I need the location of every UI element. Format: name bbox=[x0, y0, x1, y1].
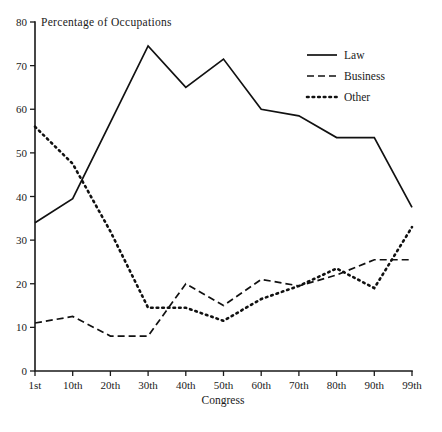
chart-canvas: 01020304050607080 1st10th20th30th40th50t… bbox=[0, 0, 442, 432]
x-tick-label: 90th bbox=[365, 379, 385, 391]
legend-label-law: Law bbox=[344, 49, 365, 61]
x-tick-label: 80th bbox=[327, 379, 347, 391]
y-tick-label: 60 bbox=[16, 103, 28, 115]
y-axis-tick-labels: 01020304050607080 bbox=[16, 16, 28, 377]
series-line-other bbox=[35, 127, 412, 321]
series-line-business bbox=[35, 260, 412, 336]
y-tick-label: 40 bbox=[16, 191, 28, 203]
x-tick-label: 70th bbox=[289, 379, 309, 391]
y-tick-label: 0 bbox=[22, 365, 28, 377]
legend-label-business: Business bbox=[344, 70, 385, 82]
y-tick-label: 10 bbox=[16, 321, 28, 333]
y-tick-label: 80 bbox=[16, 16, 28, 28]
x-axis-tick-labels: 1st10th20th30th40th50th60th70th80th90th9… bbox=[29, 379, 423, 391]
x-tick-label: 20th bbox=[101, 379, 121, 391]
x-tick-label: 30th bbox=[138, 379, 158, 391]
x-axis-title: Congress bbox=[202, 394, 245, 407]
x-tick-label: 60th bbox=[251, 379, 271, 391]
y-tick-label: 30 bbox=[16, 234, 28, 246]
x-tick-label: 50th bbox=[214, 379, 234, 391]
chart-legend: LawBusinessOther bbox=[307, 49, 385, 103]
y-tick-label: 70 bbox=[16, 60, 28, 72]
x-tick-label: 99th bbox=[402, 379, 422, 391]
y-tick-label: 50 bbox=[16, 147, 28, 159]
y-tick-label: 20 bbox=[16, 278, 28, 290]
legend-label-other: Other bbox=[344, 91, 370, 103]
occupations-line-chart: 01020304050607080 1st10th20th30th40th50t… bbox=[0, 0, 442, 432]
x-tick-label: 10th bbox=[63, 379, 83, 391]
x-tick-label: 40th bbox=[176, 379, 196, 391]
x-tick-label: 1st bbox=[29, 379, 42, 391]
data-series-group bbox=[35, 46, 412, 336]
plot-title: Percentage of Occupations bbox=[41, 16, 172, 29]
